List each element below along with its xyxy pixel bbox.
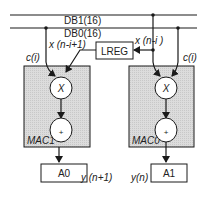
mac0-adder-symbol: + (164, 128, 169, 137)
a0-label: A0 (58, 168, 71, 179)
x-curr-label: x (n-i ) (134, 35, 163, 46)
a0-output-label: y (n+1) (80, 172, 112, 183)
a1-accumulator: A1 (151, 164, 187, 182)
mac1-multiplier-symbol: X (57, 83, 65, 94)
mac0-multiplier-symbol: X (162, 83, 170, 94)
a1-output-label: y(n) (130, 172, 148, 183)
c-left-label: c(i) (26, 52, 40, 63)
a1-label: A1 (163, 168, 176, 179)
lreg-label: LREG (101, 46, 128, 57)
mac1-adder-symbol: + (59, 128, 64, 137)
mac1-label: MAC1 (27, 135, 55, 146)
bus-db0: DB0(16) (10, 28, 197, 39)
c-right-label: c(i) (183, 52, 197, 63)
bus-db1-label: DB1(16) (64, 15, 101, 26)
mac0-label: MAC0 (132, 135, 160, 146)
lreg-register: LREG (96, 42, 133, 59)
bus-db0-label: DB0(16) (64, 28, 101, 39)
mac-diagram: DB1(16) DB0(16) MAC1 MAC0 c(i) x (n-i+1)… (0, 0, 207, 197)
x-prev-label: x (n-i+1) (48, 39, 86, 50)
bus-db1: DB1(16) (10, 15, 197, 26)
